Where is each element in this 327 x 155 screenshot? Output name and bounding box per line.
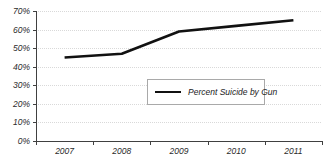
legend-label: Percent Suicide by Gun	[188, 87, 277, 97]
gridlines	[36, 12, 322, 123]
y-tick-label: 10%	[2, 117, 30, 127]
x-tick-label: 2009	[159, 146, 199, 155]
y-tick-label: 60%	[2, 25, 30, 35]
y-tick-label: 30%	[2, 80, 30, 90]
y-tick-label: 70%	[2, 6, 30, 16]
y-tick-label: 20%	[2, 99, 30, 109]
x-tick-label: 2007	[45, 146, 85, 155]
x-tick-label: 2008	[102, 146, 142, 155]
legend-line-swatch	[155, 91, 181, 93]
data-series-line	[65, 20, 294, 57]
x-tick-label: 2011	[273, 146, 313, 155]
plot-area	[0, 0, 327, 155]
line-chart: 0%10%20%30%40%50%60%70% 2007200820092010…	[0, 0, 327, 155]
y-tick-label: 40%	[2, 62, 30, 72]
y-tick-label: 0%	[2, 136, 30, 146]
x-tick-label: 2010	[216, 146, 256, 155]
y-tick-label: 50%	[2, 43, 30, 53]
y-axis-ticks	[33, 12, 36, 142]
chart-legend: Percent Suicide by Gun	[147, 79, 265, 105]
